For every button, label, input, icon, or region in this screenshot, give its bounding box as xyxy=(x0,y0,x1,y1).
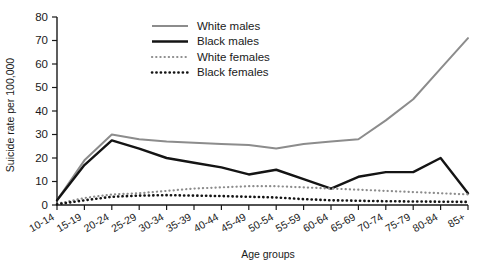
legend-label-3: Black females xyxy=(197,66,269,78)
legend-label-2: White females xyxy=(197,51,270,63)
y-tick-label: 30 xyxy=(35,128,48,140)
y-axis-ticks: 01020304050607080 xyxy=(35,11,57,211)
x-tick-label: 60-64 xyxy=(301,210,330,234)
y-tick-label: 60 xyxy=(35,58,48,70)
x-tick-label: 30-34 xyxy=(136,210,165,234)
series-line-white-females xyxy=(57,186,468,204)
x-tick-label: 70-74 xyxy=(356,210,385,234)
series-line-black-males xyxy=(57,140,468,200)
legend-label-1: Black males xyxy=(197,35,259,47)
axes-group xyxy=(57,17,468,205)
y-tick-label: 0 xyxy=(42,199,48,211)
y-tick-label: 20 xyxy=(35,152,48,164)
y-tick-label: 50 xyxy=(35,81,48,93)
legend-label-0: White males xyxy=(197,20,261,32)
x-tick-label: 20-24 xyxy=(82,210,111,234)
x-axis-ticks: 10-1415-1920-2425-2930-3435-3940-4445-49… xyxy=(27,205,468,234)
x-tick-label: 55-59 xyxy=(273,210,302,234)
chart-legend: White malesBlack malesWhite femalesBlack… xyxy=(152,20,270,79)
x-tick-label: 10-14 xyxy=(27,210,56,234)
x-tick-label: 65-69 xyxy=(328,210,357,234)
x-tick-label: 40-44 xyxy=(191,210,220,234)
suicide-rate-line-chart: 01020304050607080 10-1415-1920-2425-2930… xyxy=(0,0,477,269)
y-tick-label: 70 xyxy=(35,34,48,46)
y-tick-label: 40 xyxy=(35,105,48,117)
x-tick-label: 75-79 xyxy=(383,210,412,234)
y-tick-label: 10 xyxy=(35,175,48,187)
x-axis-title: Age groups xyxy=(241,248,295,260)
y-axis-title: Suicide rate per 100,000 xyxy=(4,58,16,173)
x-tick-label: 85+ xyxy=(446,210,467,229)
x-tick-label: 15-19 xyxy=(54,210,83,234)
x-tick-label: 35-39 xyxy=(164,210,193,234)
chart-canvas: 01020304050607080 10-1415-1920-2425-2930… xyxy=(0,0,477,269)
data-series-group xyxy=(57,38,468,204)
x-tick-label: 80-84 xyxy=(410,210,439,234)
x-tick-label: 50-54 xyxy=(246,210,275,234)
x-tick-label: 45-49 xyxy=(219,210,248,234)
y-tick-label: 80 xyxy=(35,11,48,23)
series-line-black-females xyxy=(57,195,468,204)
x-tick-label: 25-29 xyxy=(109,210,138,234)
axis-lines xyxy=(57,17,468,205)
